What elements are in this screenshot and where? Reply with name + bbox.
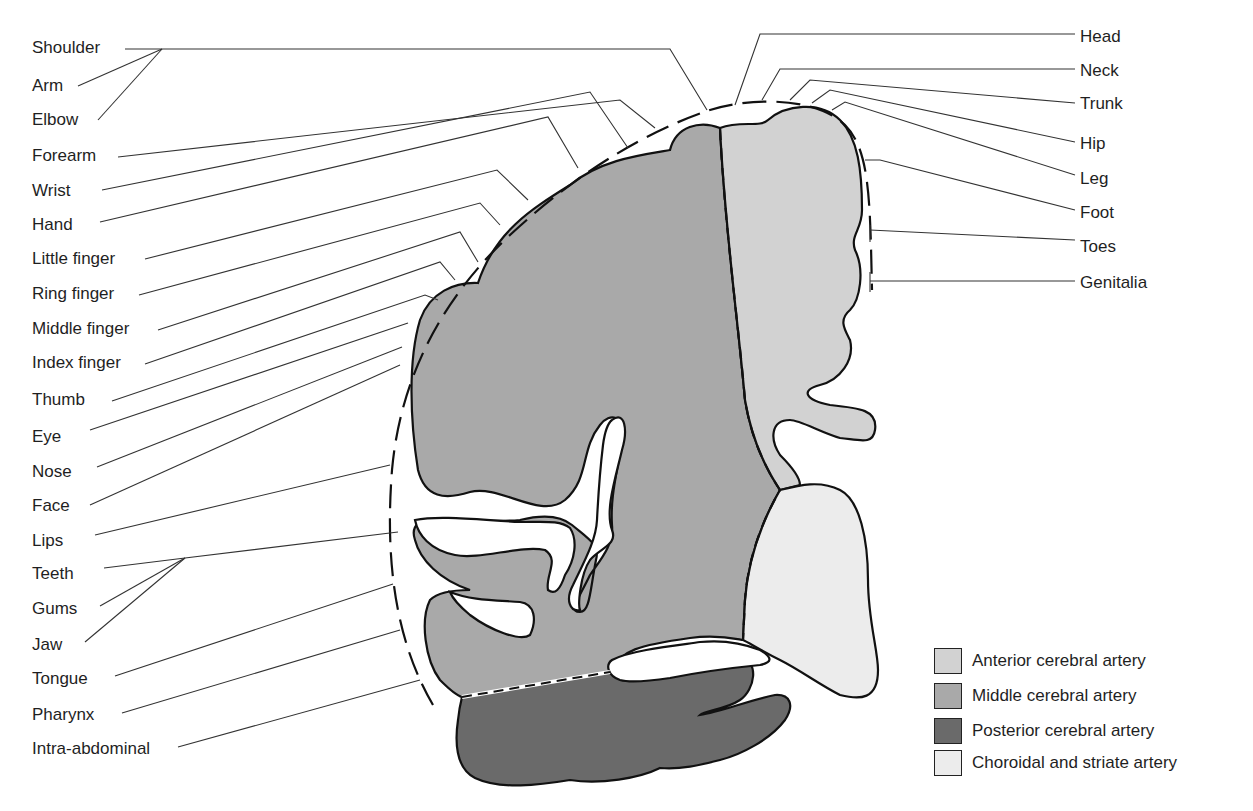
swatch-posterior <box>934 718 962 744</box>
label-neck: Neck <box>1080 61 1119 81</box>
label-jaw: Jaw <box>32 635 62 655</box>
label-foot: Foot <box>1080 203 1114 223</box>
legend-item-middle: Middle cerebral artery <box>934 683 1177 709</box>
legend-label: Posterior cerebral artery <box>972 721 1154 741</box>
label-hip: Hip <box>1080 134 1106 154</box>
label-head: Head <box>1080 27 1121 47</box>
label-face: Face <box>32 496 70 516</box>
legend-label: Anterior cerebral artery <box>972 651 1146 671</box>
label-trunk: Trunk <box>1080 94 1123 114</box>
label-middle-finger: Middle finger <box>32 319 129 339</box>
label-tongue: Tongue <box>32 669 88 689</box>
label-intra-abdominal: Intra-abdominal <box>32 739 150 759</box>
label-leg: Leg <box>1080 169 1108 189</box>
label-genitalia: Genitalia <box>1080 273 1147 293</box>
label-ring-finger: Ring finger <box>32 284 114 304</box>
label-thumb: Thumb <box>32 390 85 410</box>
label-wrist: Wrist <box>32 181 70 201</box>
label-hand: Hand <box>32 215 73 235</box>
label-arm: Arm <box>32 76 63 96</box>
label-toes: Toes <box>1080 237 1116 257</box>
label-forearm: Forearm <box>32 146 96 166</box>
legend-label: Middle cerebral artery <box>972 686 1136 706</box>
swatch-anterior <box>934 648 962 674</box>
label-elbow: Elbow <box>32 110 78 130</box>
legend: Anterior cerebral artery Middle cerebral… <box>934 648 1177 785</box>
label-lips: Lips <box>32 531 63 551</box>
label-gums: Gums <box>32 599 77 619</box>
label-shoulder: Shoulder <box>32 38 100 58</box>
label-eye: Eye <box>32 427 61 447</box>
swatch-choroidal <box>934 750 962 776</box>
legend-item-posterior: Posterior cerebral artery <box>934 718 1177 744</box>
legend-label: Choroidal and striate artery <box>972 753 1177 773</box>
label-little-finger: Little finger <box>32 249 115 269</box>
label-pharynx: Pharynx <box>32 705 94 725</box>
legend-item-anterior: Anterior cerebral artery <box>934 648 1177 674</box>
label-teeth: Teeth <box>32 564 74 584</box>
label-index-finger: Index finger <box>32 353 121 373</box>
label-nose: Nose <box>32 462 72 482</box>
swatch-middle <box>934 683 962 709</box>
legend-item-choroidal: Choroidal and striate artery <box>934 750 1177 776</box>
